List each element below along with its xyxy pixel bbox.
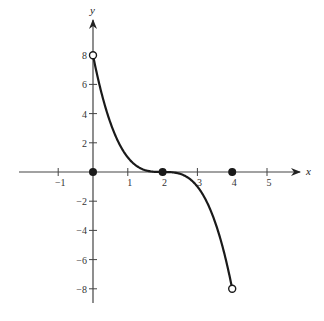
y-tick-label: −6 bbox=[76, 255, 87, 266]
open-point bbox=[229, 285, 236, 292]
y-tick-label: −4 bbox=[76, 225, 87, 236]
y-tick-label: −2 bbox=[76, 196, 87, 207]
y-tick-label: −8 bbox=[76, 284, 87, 295]
x-axis-label: x bbox=[305, 165, 311, 177]
open-point bbox=[90, 52, 97, 59]
x-tick-label: 5 bbox=[267, 177, 272, 188]
filled-point bbox=[159, 168, 167, 176]
x-tick-label: −1 bbox=[55, 177, 66, 188]
x-tick-label: 1 bbox=[127, 177, 132, 188]
y-tick-label: 4 bbox=[82, 109, 87, 120]
filled-point bbox=[89, 168, 97, 176]
y-tick-label: 8 bbox=[82, 50, 87, 61]
y-tick-label: 2 bbox=[82, 138, 87, 149]
filled-point bbox=[228, 168, 236, 176]
y-axis-label: y bbox=[89, 4, 95, 16]
y-tick-label: 6 bbox=[82, 79, 87, 90]
x-tick-label: 2 bbox=[162, 177, 167, 188]
function-graph: x y −1123458642−2−4−6−8 bbox=[0, 0, 324, 321]
x-tick-label: 4 bbox=[232, 177, 237, 188]
